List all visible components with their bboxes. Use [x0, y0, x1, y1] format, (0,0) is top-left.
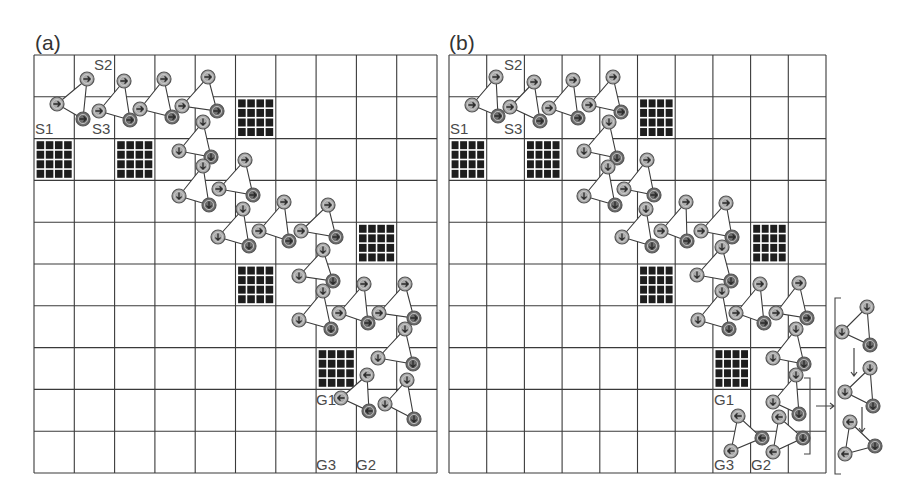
inset-formation-sequence [804, 298, 882, 474]
robot-top [236, 202, 250, 216]
robot-left [729, 306, 743, 320]
robot-bottom [406, 357, 420, 371]
robot-top [679, 195, 693, 209]
label-s3: S3 [504, 120, 522, 137]
robot-bottom [792, 407, 806, 421]
formation-triangle [211, 202, 256, 253]
robot-bottom [123, 113, 137, 127]
robot-top [201, 70, 215, 84]
formation-triangle [252, 195, 296, 248]
robot-top [753, 277, 767, 291]
robot-bottom [866, 399, 880, 413]
obstacle-block [714, 349, 750, 389]
robot-top [772, 410, 786, 424]
formation-triangle [172, 159, 216, 212]
label-s2: S2 [94, 56, 112, 73]
robot-top [602, 115, 616, 129]
robot-bottom [647, 188, 661, 202]
label-s1: S1 [35, 120, 53, 137]
robot-left [211, 230, 225, 244]
robot-bottom [165, 110, 179, 124]
robot-top [398, 277, 412, 291]
robot-top [400, 373, 414, 387]
robot-top [789, 368, 803, 382]
robot-bottom [645, 239, 659, 253]
robot-top [527, 75, 541, 89]
robot-top [640, 153, 654, 167]
robot-left [294, 224, 308, 238]
obstacle-block [752, 223, 788, 263]
robot-top [196, 115, 210, 129]
robot-bottom [76, 112, 90, 126]
obstacle-block [237, 98, 275, 138]
panel-b: S2S1S3G1G3G2 [449, 55, 826, 473]
robot-bottom [757, 316, 771, 330]
robot-bottom [755, 431, 769, 445]
robot-left [838, 385, 852, 399]
robot-top [843, 415, 857, 429]
obstacle-block [639, 265, 675, 305]
formation-triangle [838, 415, 882, 461]
robot-top [238, 153, 252, 167]
robot-bottom [324, 322, 338, 336]
label-s1: S1 [450, 120, 468, 137]
formation-triangle [378, 373, 421, 426]
robot-top [860, 300, 874, 314]
robot-left [766, 395, 780, 409]
robot-bottom [863, 338, 877, 352]
label-g2: G2 [751, 456, 771, 473]
robot-left [577, 189, 591, 203]
formation-triangle [694, 196, 739, 244]
robot-top [719, 196, 733, 210]
robot-left [577, 144, 591, 158]
label-g1: G1 [316, 391, 336, 408]
robot-left [292, 269, 306, 283]
robot-bottom [362, 404, 376, 418]
robot-left [691, 313, 705, 327]
grid [449, 55, 826, 473]
obstacle-block [525, 140, 561, 180]
formation-triangle [654, 195, 694, 248]
robot-top [321, 198, 335, 212]
robot-bottom [868, 439, 882, 453]
formation-triangle [724, 409, 769, 458]
robot-top [398, 322, 412, 336]
panel-a: S2S1S3G1G3G2 [34, 55, 437, 473]
robot-left [133, 102, 147, 116]
robot-top [606, 70, 620, 84]
robot-left [542, 101, 556, 115]
robot-top [117, 74, 131, 88]
arrow-down-icon [859, 407, 865, 432]
obstacle-block [317, 349, 355, 389]
label-g2: G2 [356, 456, 376, 473]
robot-left [617, 182, 631, 196]
robot-left [371, 351, 385, 365]
robot-bottom [796, 431, 810, 445]
robot-bottom [242, 239, 256, 253]
obstacle-block [639, 98, 675, 138]
arrow-right-icon [816, 403, 834, 409]
robot-top [715, 240, 729, 254]
robot-top [360, 368, 374, 382]
robot-left [372, 306, 386, 320]
robot-top [277, 195, 291, 209]
robot-bottom [614, 105, 628, 119]
obstacle-block [116, 140, 154, 180]
robot-top [196, 159, 210, 173]
robot-top [789, 322, 803, 336]
robot-bottom [533, 114, 547, 128]
formation-triangle [371, 322, 420, 371]
formation-triangle [835, 300, 877, 352]
formation-triangle [766, 368, 806, 421]
robot-top [601, 160, 615, 174]
robot-left [766, 445, 780, 459]
robot-left [252, 224, 266, 238]
arrow-down-icon [851, 348, 857, 376]
robot-top [639, 202, 653, 216]
robot-left [766, 351, 780, 365]
label-s3: S3 [92, 120, 110, 137]
robot-bottom [246, 188, 260, 202]
robot-top [316, 284, 330, 298]
robot-bottom [800, 311, 814, 325]
obstacle-block [237, 265, 275, 305]
